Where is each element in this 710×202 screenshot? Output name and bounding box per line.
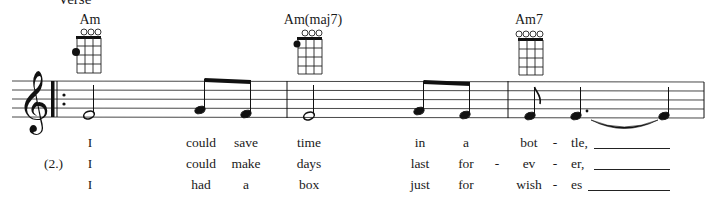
- verse-number: (2.): [44, 156, 63, 172]
- music-score: 𝄞: [0, 0, 710, 202]
- lyric-syllable: could: [186, 135, 216, 151]
- lyric-syllable: just: [410, 177, 430, 193]
- lyric-syllable: tle,: [571, 135, 588, 151]
- lyric-syllable: a: [463, 135, 469, 151]
- lyric-hyphen: -: [495, 156, 500, 172]
- lyric-extender-line: [588, 190, 670, 191]
- beam: [424, 80, 471, 86]
- augmentation-dot: [586, 110, 589, 113]
- lyric-extender-line: [594, 169, 670, 170]
- lyric-syllable: save: [234, 135, 258, 151]
- beam: [205, 78, 252, 84]
- lyric-syllable: a: [243, 177, 249, 193]
- lyric-syllable: time: [297, 135, 321, 151]
- lyric-syllable: for: [458, 177, 474, 193]
- measure-3: [524, 87, 670, 129]
- lyric-hyphen: -: [553, 156, 558, 172]
- chord-diagram-am7: [516, 31, 543, 75]
- tie: [591, 120, 658, 129]
- treble-clef-icon: 𝄞: [18, 69, 50, 135]
- staff-lines: [12, 81, 704, 118]
- chord-diagram-am-maj7: [294, 30, 323, 74]
- lyric-syllable: I: [88, 177, 93, 193]
- lyric-syllable: in: [415, 135, 426, 151]
- lyric-syllable: last: [411, 156, 430, 172]
- lyric-hyphen: -: [553, 177, 558, 193]
- lyric-syllable: er,: [571, 156, 584, 172]
- lyric-extender-line: [594, 148, 670, 149]
- lyric-syllable: days: [297, 156, 322, 172]
- lyric-syllable: I: [88, 135, 93, 151]
- finger-dot: [72, 48, 80, 56]
- lyric-syllable: ev: [523, 156, 536, 172]
- lyric-syllable: for: [458, 156, 474, 172]
- lyric-syllable: could: [186, 156, 216, 172]
- lyric-syllable: box: [299, 177, 319, 193]
- measure-2: [303, 80, 472, 121]
- lyric-syllable: had: [191, 177, 211, 193]
- lyric-syllable: es: [571, 177, 582, 193]
- finger-dot: [294, 41, 301, 48]
- flag: [535, 87, 541, 104]
- lyric-syllable: I: [88, 156, 93, 172]
- lyric-syllable: make: [231, 156, 260, 172]
- lyric-syllable: wish: [516, 177, 542, 193]
- lyric-hyphen: -: [553, 135, 558, 151]
- lyric-syllable: bot: [520, 135, 537, 151]
- chord-diagram-am: [72, 29, 101, 73]
